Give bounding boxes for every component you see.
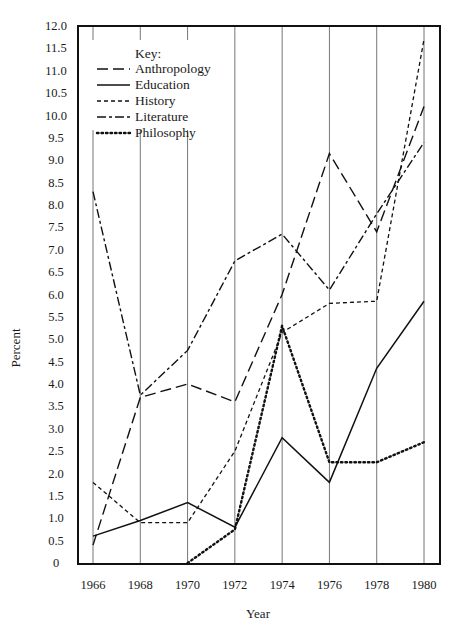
x-tick-label: 1970 <box>175 578 200 592</box>
x-tick-label: 1974 <box>270 578 296 592</box>
legend-label-anthropology: Anthropology <box>135 61 211 76</box>
y-tick-label: 3.0 <box>48 422 64 436</box>
y-tick-label: 4.0 <box>48 377 64 391</box>
x-axis-ticks: 19661968197019721974197619781980 <box>81 578 437 592</box>
y-tick-label: 8.0 <box>48 198 64 212</box>
y-axis-ticks: 00.51.01.52.02.53.03.54.04.55.05.56.06.5… <box>45 19 67 570</box>
y-axis-title: Percent <box>8 328 23 367</box>
y-tick-label: 10.5 <box>45 86 67 100</box>
y-tick-label: 10.0 <box>45 109 67 123</box>
y-tick-label: 12.0 <box>45 19 67 33</box>
y-tick-label: 9.0 <box>48 153 64 167</box>
x-tick-label: 1968 <box>128 578 153 592</box>
legend-label-philosophy: Philosophy <box>135 125 196 140</box>
series-philosophy <box>188 326 424 563</box>
x-axis-title: Year <box>246 606 271 621</box>
x-tick-label: 1972 <box>222 578 247 592</box>
y-tick-label: 8.5 <box>48 176 64 190</box>
series-anthropology <box>93 107 424 545</box>
y-tick-label: 5.0 <box>48 332 64 346</box>
series-literature <box>93 142 424 395</box>
x-tick-label: 1980 <box>412 578 437 592</box>
y-tick-label: 2.5 <box>48 444 64 458</box>
y-tick-label: 5.5 <box>48 310 64 324</box>
x-tick-label: 1976 <box>317 578 342 592</box>
x-tick-label: 1978 <box>364 578 389 592</box>
legend-label-literature: Literature <box>135 109 188 124</box>
line-chart: 00.51.01.52.02.53.03.54.04.55.05.56.06.5… <box>0 0 450 631</box>
x-tick-label: 1966 <box>81 578 106 592</box>
y-tick-label: 7.5 <box>48 220 64 234</box>
y-tick-label: 0.5 <box>48 534 64 548</box>
series-education <box>93 301 424 536</box>
legend: Key: AnthropologyEducationHistoryLiterat… <box>88 40 223 140</box>
y-tick-label: 9.5 <box>48 131 64 145</box>
y-tick-label: 6.5 <box>48 265 64 279</box>
y-tick-label: 3.5 <box>48 399 64 413</box>
legend-label-education: Education <box>135 77 190 92</box>
y-tick-label: 7.0 <box>48 243 64 257</box>
y-tick-label: 1.0 <box>48 511 64 525</box>
y-tick-label: 11.0 <box>45 64 66 78</box>
y-tick-label: 2.0 <box>48 467 64 481</box>
y-tick-label: 4.5 <box>48 355 64 369</box>
legend-title: Key: <box>135 46 161 61</box>
y-tick-label: 6.0 <box>48 288 64 302</box>
y-tick-label: 1.5 <box>48 489 64 503</box>
legend-label-history: History <box>135 93 176 108</box>
y-tick-label: 0 <box>53 556 59 570</box>
y-tick-label: 11.5 <box>45 41 66 55</box>
